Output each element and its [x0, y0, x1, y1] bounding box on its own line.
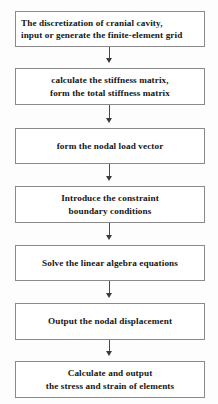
- node-label: Solve the linear algebra equations: [42, 257, 178, 269]
- flowchart-node-discretization-step: The discretization of cranial cavity, in…: [15, 11, 205, 47]
- arrow-head-icon-1: [106, 58, 112, 63]
- arrow-head-icon-6: [106, 351, 112, 356]
- flowchart-node-solve-equations-step: Solve the linear algebra equations: [15, 245, 205, 281]
- flowchart-diagram: The discretization of cranial cavity, in…: [0, 0, 218, 404]
- arrow-head-icon-5: [106, 293, 112, 298]
- flowchart-node-stiffness-matrix-step: calculate the stiffness matrix, form the…: [15, 68, 205, 105]
- connector-line-4-to-5: [109, 223, 110, 235]
- connector-line-5-to-6: [109, 281, 110, 293]
- node-label: calculate the stiffness matrix, form the…: [50, 74, 170, 99]
- flowchart-node-stress-strain-step: Calculate and output the stress and stra…: [15, 361, 205, 398]
- arrow-head-icon-3: [106, 176, 112, 181]
- node-label: form the nodal load vector: [57, 140, 164, 152]
- flowchart-node-output-displacement-step: Output the nodal displacement: [15, 303, 205, 340]
- flowchart-node-nodal-load-vector-step: form the nodal load vector: [15, 128, 205, 164]
- node-label: The discretization of cranial cavity, in…: [21, 17, 182, 42]
- connector-line-3-to-4: [109, 164, 110, 176]
- arrow-head-icon-2: [106, 118, 112, 123]
- node-label: Calculate and output the stress and stra…: [46, 367, 174, 392]
- connector-line-2-to-3: [109, 105, 110, 118]
- node-label: Introduce the constraint boundary condit…: [61, 192, 159, 217]
- arrow-head-icon-4: [106, 235, 112, 240]
- connector-line-1-to-2: [109, 47, 110, 58]
- connector-line-6-to-7: [109, 340, 110, 351]
- node-label: Output the nodal displacement: [48, 315, 172, 327]
- flowchart-node-constraint-boundary-step: Introduce the constraint boundary condit…: [15, 186, 205, 223]
